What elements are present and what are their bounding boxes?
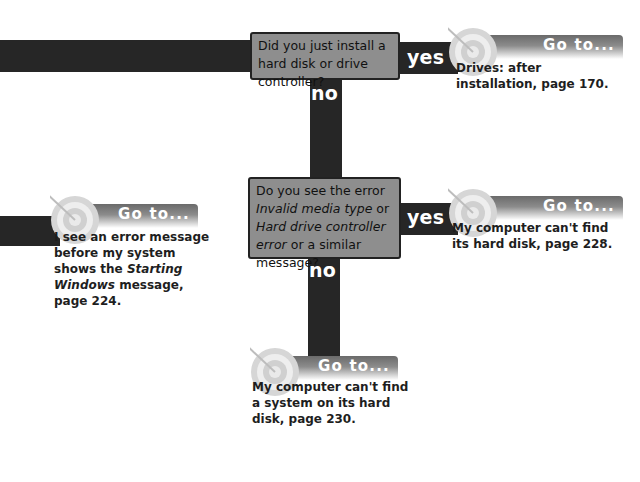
goto-label: Go to... [118, 205, 190, 223]
goto-cant-find-hard-disk[interactable]: Go to... My computer can't find its hard… [448, 183, 638, 263]
goto-banner: Go to... [478, 35, 623, 59]
goto-description: I see an error message before my system … [54, 229, 209, 309]
question-text-part: or [372, 201, 389, 216]
goto-label: Go to... [318, 357, 390, 375]
goto-description: My computer can't find a system on its h… [252, 379, 408, 427]
goto-cant-find-system-on-hard-disk[interactable]: Go to... My computer can't find a system… [248, 345, 418, 435]
goto-description: Drives: after installation, page 170. [456, 60, 609, 92]
goto-error-before-starting-windows[interactable]: Go to... I see an error message before m… [48, 190, 208, 320]
question-box-install: Did you just install a hard disk or driv… [250, 32, 400, 80]
no-label-q1: no [311, 83, 338, 103]
question-box-error: Do you see the error Invalid media type … [248, 177, 401, 259]
question-text-italic: Invalid media type [256, 201, 372, 216]
no-label-q2: no [309, 260, 336, 280]
goto-description: My computer can't find its hard disk, pa… [452, 220, 612, 252]
goto-label: Go to... [543, 197, 615, 215]
question-text-part: Do you see the error [256, 183, 385, 198]
yes-label-q2: yes [407, 207, 444, 227]
goto-drives-after-installation[interactable]: Go to... Drives: after installation, pag… [448, 22, 638, 112]
goto-banner: Go to... [478, 196, 623, 220]
connector-left-top [0, 40, 254, 72]
yes-label-q1: yes [407, 47, 444, 67]
goto-label: Go to... [543, 36, 615, 54]
